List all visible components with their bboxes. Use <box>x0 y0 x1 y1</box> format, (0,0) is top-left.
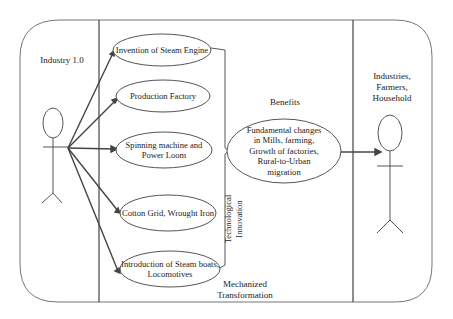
use-case-label-steam-boats: Introduction of Steam boats, Locomotives <box>118 258 222 280</box>
use-case-label-steam-engine: Invention of Steam Engine <box>113 40 211 60</box>
bottom-label-line: Mechanized <box>200 279 290 290</box>
use-case-text: Power Loom <box>142 150 187 161</box>
use-case-text: Production Factory <box>130 91 196 102</box>
association-arrows <box>68 50 120 273</box>
bracket-label-line: Innovation <box>234 184 245 254</box>
use-case-text: Spinning machine and <box>126 140 203 151</box>
use-case-text: Introduction of Steam boats, <box>121 259 219 270</box>
bottom-label-line: Transformation <box>200 290 290 301</box>
bracket-label-line: Technological <box>223 184 234 254</box>
use-case-label-production-factory: Production Factory <box>116 86 210 106</box>
diagram-canvas <box>0 0 453 319</box>
use-case-label-cotton-grid: Cotton Grid, Wrought Iron <box>120 203 216 223</box>
benefits-line: Rural-to-Urban <box>258 156 311 167</box>
technological-innovation-label: Technological Innovation <box>223 184 245 254</box>
benefits-line: Fundamental changes <box>247 125 322 136</box>
left-actor-figure <box>42 108 68 203</box>
right-actor-label-line: Industries, <box>354 71 430 82</box>
right-actor-label-line: Household <box>354 93 430 104</box>
right-actor-label-line: Farmers, <box>354 82 430 93</box>
use-case-text: Locomotives <box>148 269 193 280</box>
benefits-line: in Mills, farming, <box>254 135 315 146</box>
right-actor-figure <box>377 115 403 233</box>
benefits-arrow <box>341 149 381 155</box>
left-actor-label: Industry 1.0 <box>30 55 94 66</box>
use-case-text: Invention of Steam Engine <box>116 45 208 56</box>
benefits-text: Fundamental changes in Mills, farming, G… <box>230 122 338 180</box>
mechanized-transformation-label: Mechanized Transformation <box>200 279 290 301</box>
right-actor-label: Industries, Farmers, Household <box>354 71 430 104</box>
benefits-line: migration <box>267 167 300 178</box>
benefits-line: Growth of factories, <box>249 146 318 157</box>
use-case-text: Cotton Grid, Wrought Iron <box>122 208 214 219</box>
benefits-heading: Benefits <box>250 97 320 108</box>
use-case-label-spinning-machine: Spinning machine and Power Loom <box>116 139 212 161</box>
